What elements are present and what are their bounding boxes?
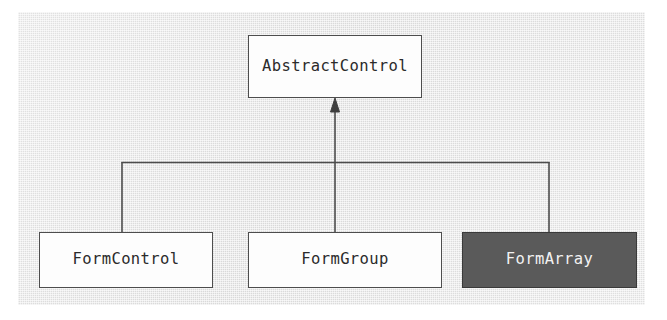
class-node-label: FormGroup [301, 252, 389, 268]
class-node-label: FormArray [506, 252, 594, 268]
class-hierarchy-diagram: AbstractControl FormControl FormGroup Fo… [0, 0, 667, 320]
class-node-formcontrol[interactable]: FormControl [39, 232, 213, 288]
class-node-formarray[interactable]: FormArray [462, 232, 637, 288]
class-node-label: FormControl [72, 252, 179, 268]
class-node-formgroup[interactable]: FormGroup [248, 232, 442, 288]
class-node-abstractcontrol[interactable]: AbstractControl [248, 35, 422, 98]
class-node-label: AbstractControl [262, 59, 408, 75]
